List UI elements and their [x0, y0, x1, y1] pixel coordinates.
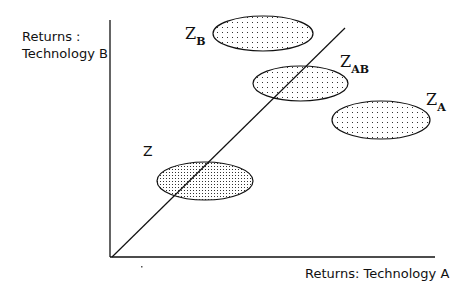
label-z-a-main: Z [426, 90, 437, 109]
y-axis-label: Returns : Technology B [22, 28, 108, 62]
label-z-ab-sub: AB [351, 63, 369, 76]
x-axis-label: Returns: Technology A [305, 265, 449, 282]
label-z-b-sub: B [196, 35, 205, 48]
label-z: Z [143, 143, 153, 159]
region-z-a [332, 101, 430, 139]
y-axis-label-line1: Returns : [22, 28, 108, 45]
label-z-b-main: Z [185, 24, 196, 43]
label-z-ab-main: Z [340, 52, 351, 71]
label-z-a-sub: A [437, 101, 446, 114]
label-z-ab: ZAB [340, 52, 369, 76]
y-axis-label-line2: Technology B [22, 45, 108, 62]
label-z-b: ZB [185, 24, 205, 48]
label-z-a: ZA [426, 90, 446, 114]
region-z [157, 162, 253, 200]
region-z-b [213, 16, 313, 51]
stray-dot [141, 266, 143, 268]
label-z-main: Z [143, 143, 153, 159]
